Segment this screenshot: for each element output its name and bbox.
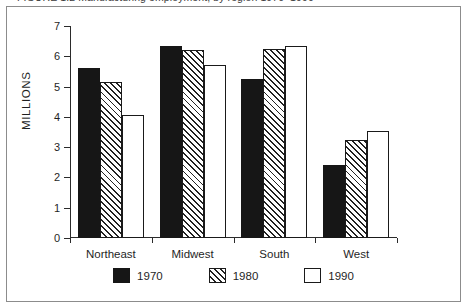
y-axis-line xyxy=(70,26,71,238)
y-axis-tick-label: 4 xyxy=(54,111,60,122)
y-axis-title: MILLIONS xyxy=(20,72,32,130)
bar-west-1990 xyxy=(367,131,389,238)
y-axis-tick-label: 7 xyxy=(54,21,60,32)
legend-swatch-1990 xyxy=(304,268,321,283)
legend-label-1980: 1980 xyxy=(233,270,259,282)
y-axis-tick-label: 5 xyxy=(54,81,60,92)
y-axis-tick: 6 xyxy=(64,56,70,57)
x-axis-tick xyxy=(397,238,398,243)
y-axis-tick: 4 xyxy=(64,117,70,118)
legend-item-1980: 1980 xyxy=(209,268,259,283)
x-axis-tick xyxy=(152,238,153,243)
legend-item-1990: 1990 xyxy=(304,268,354,283)
bar-midwest-1990 xyxy=(204,65,226,238)
x-axis-category-label: South xyxy=(259,248,289,260)
bar-south-1990 xyxy=(285,46,307,238)
bar-midwest-1980 xyxy=(182,50,204,238)
legend-swatch-1970 xyxy=(113,268,130,283)
legend-label-1970: 1970 xyxy=(137,270,163,282)
y-axis-tick: 3 xyxy=(64,147,70,148)
legend-item-1970: 1970 xyxy=(113,268,163,283)
figure-root: FIGURE 1.2 Manufacturing employment, by … xyxy=(0,0,467,308)
x-axis-category-label: Northeast xyxy=(86,248,136,260)
bar-south-1970 xyxy=(241,79,263,238)
y-axis-tick: 2 xyxy=(64,177,70,178)
x-axis-tick xyxy=(70,238,71,243)
x-axis-tick xyxy=(234,238,235,243)
bar-northeast-1970 xyxy=(78,68,100,238)
bar-south-1980 xyxy=(263,49,285,238)
y-axis-tick-label: 1 xyxy=(54,202,60,213)
x-axis-tick xyxy=(315,238,316,243)
x-axis-category-label: Midwest xyxy=(172,248,214,260)
bar-west-1980 xyxy=(345,140,367,238)
y-axis-tick-label: 6 xyxy=(54,51,60,62)
x-axis-category-label: West xyxy=(343,248,369,260)
y-axis-tick: 7 xyxy=(64,26,70,27)
y-axis-tick-label: 3 xyxy=(54,142,60,153)
bar-west-1970 xyxy=(323,165,345,238)
bar-midwest-1970 xyxy=(160,46,182,238)
chart-legend: 197019801990 xyxy=(70,268,397,283)
legend-label-1990: 1990 xyxy=(328,270,354,282)
y-axis-tick: 5 xyxy=(64,87,70,88)
y-axis-tick: 1 xyxy=(64,208,70,209)
plot-area: 01234567 NortheastMidwestSouthWest xyxy=(70,26,397,238)
bar-northeast-1990 xyxy=(122,115,144,238)
y-axis-tick-label: 2 xyxy=(54,172,60,183)
bar-northeast-1980 xyxy=(100,82,122,238)
legend-swatch-1980 xyxy=(209,268,226,283)
figure-caption: FIGURE 1.2 Manufacturing employment, by … xyxy=(0,0,467,3)
y-axis-tick-label: 0 xyxy=(54,233,60,244)
